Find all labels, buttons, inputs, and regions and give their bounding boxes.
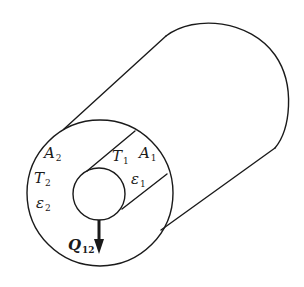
heat-flow-arrow [94,220,104,254]
outer-cylinder-back-arc [166,23,289,148]
label-outer-area: A2 [44,146,62,163]
label-inner-temperature: T1 [112,149,129,166]
label-heat-flow: Q12 [68,238,95,255]
label-inner-emissivity: ε1 [131,172,146,189]
coaxial-cylinder-diagram: A2 T2 ε2 T1 A1 ε1 Q12 [0,0,304,287]
label-inner-area: A1 [139,146,157,163]
inner-front-circle [73,168,125,220]
outer-cylinder-bottom-edge [161,148,275,230]
outer-cylinder-top-edge [64,36,166,129]
label-outer-emissivity: ε2 [36,196,51,213]
label-outer-temperature: T2 [34,171,51,188]
